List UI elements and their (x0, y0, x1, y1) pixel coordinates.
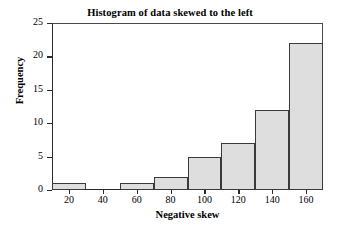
histogram-figure: Histogram of data skewed to the left 204… (0, 0, 340, 232)
page-title: Histogram of data skewed to the left (0, 7, 340, 18)
y-axis-tick-label: 5 (10, 150, 43, 161)
y-axis-tick (47, 123, 52, 124)
x-axis-label: Negative skew (52, 209, 323, 220)
histogram-bar (188, 157, 222, 190)
bars-container (52, 23, 323, 190)
y-axis-tick (47, 23, 52, 24)
y-axis-tick (47, 157, 52, 158)
histogram-bar (221, 143, 255, 190)
x-axis-tick-label: 160 (286, 194, 326, 205)
y-axis-tick (47, 190, 52, 191)
y-axis-tick-label: 0 (10, 183, 43, 194)
y-axis-label: Frequency (14, 31, 25, 131)
histogram-bar (120, 183, 154, 190)
y-axis-tick (47, 56, 52, 57)
histogram-bar (255, 110, 289, 190)
histogram-bar (52, 183, 86, 190)
histogram-bar (289, 43, 323, 190)
y-axis-tick-label: 25 (10, 16, 43, 27)
histogram-bar (154, 177, 188, 190)
y-axis-tick (47, 90, 52, 91)
